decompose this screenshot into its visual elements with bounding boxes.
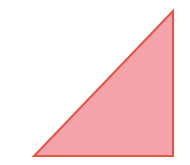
right-triangle-shape [34,11,173,156]
diagram-canvas [0,0,190,165]
